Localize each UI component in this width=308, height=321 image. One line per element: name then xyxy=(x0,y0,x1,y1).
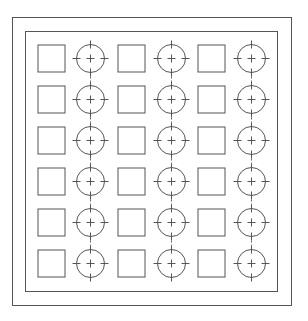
crosshair-circle xyxy=(73,205,109,246)
crosshair-circle xyxy=(234,123,270,164)
outer-border xyxy=(13,18,292,306)
inner-border xyxy=(26,32,278,292)
square-cell xyxy=(38,168,65,195)
square-cell xyxy=(198,127,225,154)
crosshair-circle xyxy=(154,205,190,246)
crosshair-circle xyxy=(154,123,190,164)
square-cell xyxy=(118,250,145,277)
element-grid xyxy=(38,41,270,282)
crosshair-circle xyxy=(73,123,109,164)
square-cell xyxy=(118,45,145,72)
square-cell xyxy=(118,168,145,195)
crosshair-circle xyxy=(234,82,270,123)
square-cell xyxy=(38,127,65,154)
square-cell xyxy=(198,168,225,195)
crosshair-circle xyxy=(73,82,109,123)
crosshair-circle xyxy=(154,82,190,123)
crosshair-circle xyxy=(154,246,190,282)
square-cell xyxy=(118,209,145,236)
square-cell xyxy=(198,86,225,113)
crosshair-circle xyxy=(73,41,109,82)
square-cell xyxy=(198,250,225,277)
square-cell xyxy=(198,45,225,72)
crosshair-circle xyxy=(73,246,109,282)
crosshair-circle xyxy=(73,164,109,205)
crosshair-circle xyxy=(234,41,270,82)
square-cell xyxy=(38,209,65,236)
square-cell xyxy=(198,209,225,236)
crosshair-circle xyxy=(234,246,270,282)
square-cell xyxy=(118,86,145,113)
square-cell xyxy=(38,86,65,113)
diagram-canvas xyxy=(0,0,308,321)
crosshair-circle xyxy=(234,205,270,246)
crosshair-circle xyxy=(234,164,270,205)
square-cell xyxy=(38,250,65,277)
crosshair-circle xyxy=(154,41,190,82)
square-cell xyxy=(118,127,145,154)
crosshair-circle xyxy=(154,164,190,205)
square-cell xyxy=(38,45,65,72)
